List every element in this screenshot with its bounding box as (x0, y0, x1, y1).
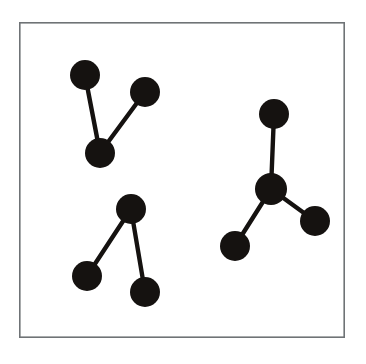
graph-node (116, 194, 146, 224)
graph-node (220, 231, 250, 261)
graph-node (130, 277, 160, 307)
figure-root (0, 0, 366, 364)
plot-border (20, 23, 344, 337)
graph-node (70, 60, 100, 90)
graph-node (72, 261, 102, 291)
graph-figure-svg (0, 0, 366, 364)
graph-node (130, 77, 160, 107)
graph-node (255, 173, 287, 205)
graph-node (85, 138, 115, 168)
graph-node (259, 99, 289, 129)
graph-node (300, 206, 330, 236)
